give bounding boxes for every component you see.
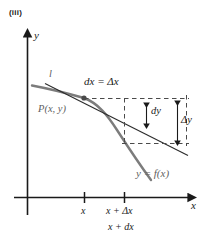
tangent-line-label: l xyxy=(49,69,52,80)
dx-equals-delta-x-label: dx = Δx xyxy=(84,76,119,87)
figure-canvas xyxy=(0,0,204,242)
y-axis-label: y xyxy=(34,30,39,41)
differentials-figure: (iii) y x l P(x, y) dx = Δx dy Δy y = f(… xyxy=(0,0,204,242)
function-curve xyxy=(32,86,151,181)
dashed-guides xyxy=(84,95,189,146)
tick-label-x-plus-delta-x: x + Δx xyxy=(106,206,133,216)
tick-label-x: x xyxy=(81,206,85,216)
delta-y-label: Δy xyxy=(181,115,192,126)
tick-label-x-plus-dx: x + dx xyxy=(108,222,134,232)
dy-label: dy xyxy=(151,106,161,117)
x-axis-label: x xyxy=(191,200,196,211)
function-label: y = f(x) xyxy=(136,168,169,179)
tangent-line xyxy=(45,84,188,156)
point-p-label: P(x, y) xyxy=(38,104,66,115)
part-label: (iii) xyxy=(9,9,22,17)
